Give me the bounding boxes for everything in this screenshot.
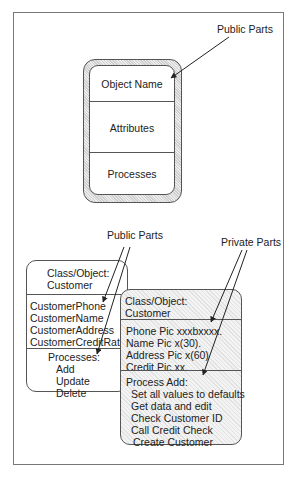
arrow-private-attributes (211, 250, 242, 322)
arrow-private-process (203, 250, 247, 375)
arrow-top-public (171, 37, 229, 78)
arrow-public-processes (97, 247, 130, 354)
arrow-public-attributes (103, 247, 124, 302)
callout-arrows (0, 0, 298, 478)
